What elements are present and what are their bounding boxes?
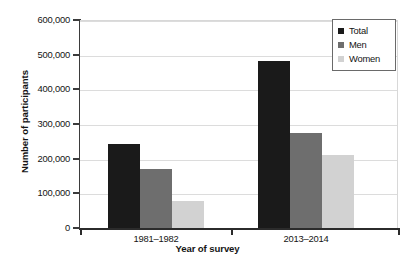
chart-legend: TotalMenWomen: [332, 19, 396, 71]
gridline: [80, 90, 397, 91]
x-axis-tick: [398, 228, 400, 235]
y-axis-tick: [73, 54, 80, 56]
y-axis-tick-label: 300,000: [8, 118, 70, 129]
x-axis-tick: [231, 228, 233, 235]
y-axis-tick: [73, 88, 80, 90]
gridline: [80, 125, 397, 126]
bar-men-1: [290, 133, 322, 228]
legend-swatch-icon: [338, 56, 344, 62]
y-axis-tick-labels: 0100,000200,000300,000400,000500,000600,…: [0, 0, 70, 266]
bar-chart-figure: Number of participants 0100,000200,00030…: [0, 0, 415, 266]
bar-total-1: [258, 61, 290, 228]
legend-label: Women: [349, 54, 380, 63]
x-axis-tick-label: 2013–2014: [246, 233, 366, 244]
bar-women-1: [322, 155, 354, 228]
y-axis-tick: [73, 227, 80, 229]
y-axis-tick: [73, 158, 80, 160]
x-axis-title: Year of survey: [0, 243, 415, 254]
y-axis-tick-label: 0: [8, 222, 70, 233]
x-axis-line: [79, 228, 399, 230]
legend-entry-total: Total: [338, 24, 395, 38]
bar-men-0: [140, 169, 172, 228]
y-axis-tick-label: 600,000: [8, 14, 70, 25]
legend-label: Men: [349, 40, 367, 49]
legend-label: Total: [349, 26, 368, 35]
legend-swatch-icon: [338, 42, 344, 48]
x-axis-tick: [80, 228, 82, 235]
legend-swatch-icon: [338, 28, 344, 34]
y-axis-tick-label: 200,000: [8, 153, 70, 164]
y-axis-tick-label: 500,000: [8, 49, 70, 60]
y-axis-tick: [73, 19, 80, 21]
y-axis-tick-label: 100,000: [8, 187, 70, 198]
x-axis-tick-label: 1981–1982: [96, 233, 216, 244]
y-axis-tick-label: 400,000: [8, 83, 70, 94]
bar-women-0: [172, 201, 204, 228]
bar-total-0: [108, 144, 140, 228]
y-axis-tick: [73, 192, 80, 194]
legend-entry-men: Men: [338, 38, 395, 52]
legend-entry-women: Women: [338, 52, 395, 66]
y-axis-tick: [73, 123, 80, 125]
